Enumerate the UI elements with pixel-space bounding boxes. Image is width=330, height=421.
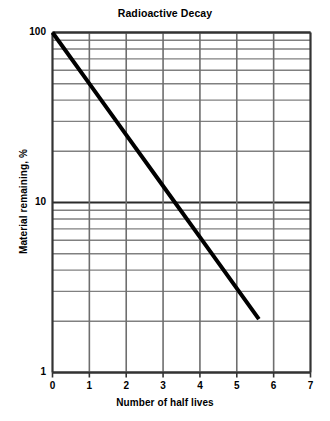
x-tick-label-7: 7 [296, 380, 326, 391]
y-tick-label-100: 100 [8, 26, 46, 37]
x-tick-label-0: 0 [38, 380, 68, 391]
minor-gridlines [53, 40, 311, 321]
decay-curve [53, 33, 259, 320]
chart-figure: Radioactive Decay 110100 01234567 Number… [0, 0, 330, 421]
x-tick-label-1: 1 [74, 380, 104, 391]
x-tick-label-4: 4 [185, 380, 215, 391]
y-tick-label-1: 1 [8, 366, 46, 377]
x-tick-label-2: 2 [111, 380, 141, 391]
x-tick-label-5: 5 [222, 380, 252, 391]
x-tick-label-3: 3 [148, 380, 178, 391]
x-axis-label: Number of half lives [0, 397, 330, 408]
x-tick-label-6: 6 [259, 380, 289, 391]
plot-canvas [0, 0, 330, 421]
decay-line [53, 33, 259, 320]
y-axis-label: Material remaining, % [18, 117, 29, 287]
